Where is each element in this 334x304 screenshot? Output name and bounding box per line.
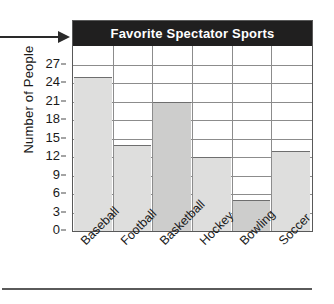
y-tick-mark	[61, 82, 66, 83]
y-tick-mark	[61, 193, 66, 194]
y-tick-label: 6	[53, 187, 60, 199]
y-tick-mark	[61, 156, 66, 157]
y-axis-title: Number of People	[21, 20, 36, 180]
y-tick-label: 24	[46, 76, 60, 88]
bar-baseball	[74, 77, 112, 231]
y-tick-label: 18	[46, 113, 60, 125]
y-tick-label: 27	[46, 58, 60, 70]
y-tick-mark	[61, 137, 66, 138]
y-tick-label: 15	[46, 132, 60, 144]
y-axis-tick-labels: 0369121518212427	[36, 55, 66, 233]
bottom-divider	[2, 288, 312, 290]
plot-frame: Favorite Spectator Sports	[72, 20, 313, 232]
y-tick-mark	[61, 174, 66, 175]
y-tick-mark	[61, 119, 66, 120]
y-tick-mark	[61, 211, 66, 212]
y-tick-label: 3	[53, 206, 60, 218]
y-tick-mark	[61, 230, 66, 231]
x-axis-category-labels: BaseballFootballBasketballHockeyBowlingS…	[72, 232, 313, 292]
pointer-arrow-icon	[0, 30, 74, 44]
y-tick-label: 12	[46, 150, 60, 162]
y-tick-label: 0	[53, 224, 60, 236]
y-tick-mark	[61, 63, 66, 64]
arrow-head	[58, 31, 70, 43]
bar-chart-figure: Number of People 0369121518212427 Favori…	[0, 0, 334, 304]
chart-title: Favorite Spectator Sports	[73, 21, 312, 46]
y-tick-label: 21	[46, 95, 60, 107]
y-tick-mark	[61, 100, 66, 101]
y-tick-label: 9	[53, 169, 60, 181]
